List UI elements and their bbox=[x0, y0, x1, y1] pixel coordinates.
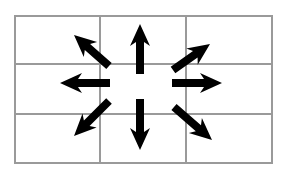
radiating-arrows-diagram bbox=[0, 0, 281, 176]
